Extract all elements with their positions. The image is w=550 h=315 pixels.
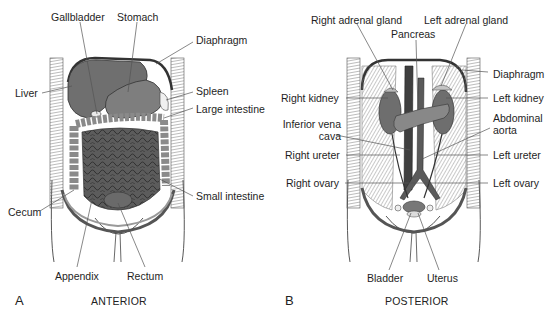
label-diaphragm-posterior: Diaphragm [493,68,544,80]
label-inferior-vena-cava-line1: Inferior vena [281,118,341,130]
label-uterus: Uterus [427,272,458,284]
label-left-kidney: Left kidney [493,92,544,104]
panel-letter-a: A [15,293,24,308]
label-left-adrenal-gland: Left adrenal gland [424,14,508,26]
label-right-kidney: Right kidney [281,92,339,104]
label-stomach: Stomach [117,11,158,23]
panel-letter-b: B [285,293,294,308]
label-abdominal-aorta: Abdominal aorta [493,112,543,136]
anterior-figure [50,58,184,262]
label-left-ovary: Left ovary [493,177,539,189]
posterior-figure [347,58,480,262]
anatomy-illustration [0,0,550,315]
label-appendix: Appendix [55,270,99,282]
label-abdominal-aorta-line2: aorta [493,124,543,136]
label-right-ovary: Right ovary [286,177,339,189]
label-gallbladder: Gallbladder [51,11,105,23]
label-abdominal-aorta-line1: Abdominal [493,112,543,124]
label-rectum: Rectum [127,270,163,282]
label-large-intestine: Large intestine [196,103,265,115]
label-inferior-vena-cava-line2: cava [281,130,341,142]
label-pancreas: Pancreas [391,28,435,40]
label-right-adrenal-gland: Right adrenal gland [311,14,402,26]
label-small-intestine: Small intestine [196,190,264,202]
label-bladder: Bladder [367,272,403,284]
label-liver: Liver [15,87,38,99]
label-cecum: Cecum [8,206,41,218]
label-diaphragm-anterior: Diaphragm [196,34,247,46]
label-right-ureter: Right ureter [285,149,340,161]
label-left-ureter: Left ureter [493,149,541,161]
label-inferior-vena-cava: Inferior vena cava [281,118,341,142]
label-spleen: Spleen [196,85,229,97]
panel-view-anterior: ANTERIOR [91,295,147,307]
panel-view-posterior: POSTERIOR [385,295,449,307]
